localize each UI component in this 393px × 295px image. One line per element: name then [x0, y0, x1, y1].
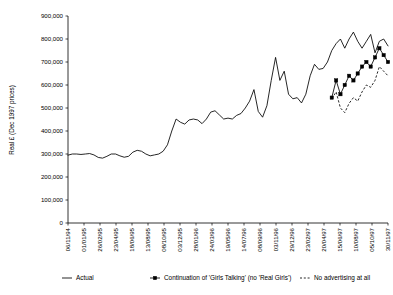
- x-tick-label: 14/07/96: [240, 227, 247, 251]
- y-axis-title: Real £ (Dec 1997 prices): [8, 85, 16, 155]
- series-line-continuation: [332, 48, 388, 97]
- y-tick-label: 700,000: [41, 58, 64, 65]
- legend-marker-square: [153, 276, 156, 279]
- series-marker-square: [334, 79, 337, 82]
- x-tick-label: 24/03/96: [208, 227, 215, 251]
- x-tick-label: 29/12/96: [288, 227, 295, 251]
- series-marker-square: [373, 56, 376, 59]
- y-tick-label: 600,000: [41, 81, 64, 88]
- x-tick-label: 26/02/95: [96, 227, 103, 251]
- y-tick-label: 300,000: [41, 150, 64, 157]
- x-tick-label: 28/01/96: [192, 227, 199, 251]
- x-tick-label: 19/05/96: [224, 227, 231, 251]
- series-marker-square: [369, 65, 372, 68]
- chart-container: 900,000800,000700,000600,000500,000400,0…: [0, 0, 393, 295]
- x-tick-label: 03/12/95: [176, 227, 183, 251]
- series-marker-square: [339, 93, 342, 96]
- series-marker-square: [360, 65, 363, 68]
- y-tick-label: 900,000: [41, 12, 64, 19]
- legend-label-2: No advertising at all: [314, 274, 370, 282]
- series-marker-square: [386, 60, 389, 63]
- x-tick-label: 20/04/97: [320, 227, 327, 251]
- y-tick-label: 200,000: [41, 173, 64, 180]
- x-tick-label: 13/08/95: [144, 227, 151, 251]
- line-chart: 900,000800,000700,000600,000500,000400,0…: [0, 0, 393, 295]
- x-tick-label: 18/06/95: [128, 227, 135, 251]
- x-tick-label: 08/10/95: [160, 227, 167, 251]
- x-tick-label: 30/11/97: [384, 227, 391, 251]
- series-marker-square: [347, 74, 350, 77]
- x-tick-label: 15/06/97: [336, 227, 343, 251]
- x-axis-ticks: 06/11/9401/01/9526/02/9523/04/9518/06/95…: [64, 223, 391, 252]
- series-marker-square: [356, 72, 359, 75]
- x-tick-label: 03/11/96: [272, 227, 279, 251]
- y-tick-label: 400,000: [41, 127, 64, 134]
- legend-label-0: Actual: [76, 274, 94, 281]
- series-marker-square: [352, 79, 355, 82]
- y-axis-ticks: 900,000800,000700,000600,000500,000400,0…: [41, 12, 68, 226]
- series-marker-square: [365, 60, 368, 63]
- x-tick-label: 23/02/97: [304, 227, 311, 251]
- x-tick-label: 05/10/97: [368, 227, 375, 251]
- series-marker-square: [378, 47, 381, 50]
- x-tick-label: 08/09/96: [256, 227, 263, 251]
- y-tick-label: 0: [60, 219, 64, 226]
- series-line-no-advertising: [332, 67, 388, 113]
- y-tick-label: 100,000: [41, 196, 64, 203]
- series-marker-square: [382, 53, 385, 56]
- x-tick-label: 01/01/95: [80, 227, 87, 251]
- y-tick-label: 800,000: [41, 35, 64, 42]
- y-tick-label: 500,000: [41, 104, 64, 111]
- chart-legend: ActualContinuation of 'Girls Talking' (n…: [62, 274, 370, 282]
- x-tick-label: 06/11/94: [64, 227, 71, 251]
- x-tick-label: 23/04/95: [112, 227, 119, 251]
- series-marker-square: [343, 83, 346, 86]
- legend-label-1: Continuation of 'Girls Talking' (no 'Rea…: [164, 274, 291, 282]
- series-layer: [68, 32, 390, 158]
- x-tick-label: 10/08/97: [352, 227, 359, 251]
